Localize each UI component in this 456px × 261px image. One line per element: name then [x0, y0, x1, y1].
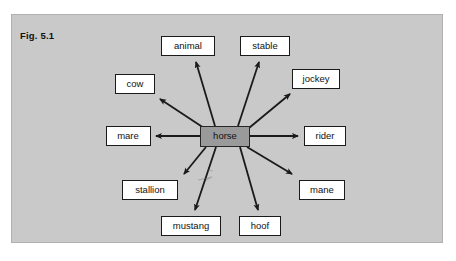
figure-page: Fig. 5.1 horseanimalstablecowjockeymarer… [0, 0, 456, 261]
figure-label: Fig. 5.1 [20, 30, 54, 41]
node-label: rider [315, 131, 334, 141]
node-mustang[interactable]: mustang [161, 216, 221, 236]
node-cow[interactable]: cow [115, 74, 155, 94]
node-animal[interactable]: animal [161, 36, 215, 56]
node-label: animal [174, 41, 202, 51]
node-hoof[interactable]: hoof [239, 216, 281, 236]
node-label: cow [127, 79, 144, 89]
node-label: stallion [135, 185, 165, 195]
node-label: mane [310, 185, 334, 195]
node-label: jockey [303, 74, 330, 84]
node-label: mustang [173, 221, 209, 231]
node-label: hoof [251, 221, 270, 231]
node-mare[interactable]: mare [106, 126, 151, 146]
node-label: horse [213, 131, 237, 141]
node-label: stable [252, 41, 277, 51]
node-jockey[interactable]: jockey [292, 69, 340, 89]
node-stable[interactable]: stable [240, 36, 290, 56]
node-label: mare [117, 131, 139, 141]
node-stallion[interactable]: stallion [122, 180, 178, 200]
node-rider[interactable]: rider [304, 126, 346, 146]
node-horse[interactable]: horse [200, 126, 250, 147]
node-mane[interactable]: mane [299, 180, 345, 200]
